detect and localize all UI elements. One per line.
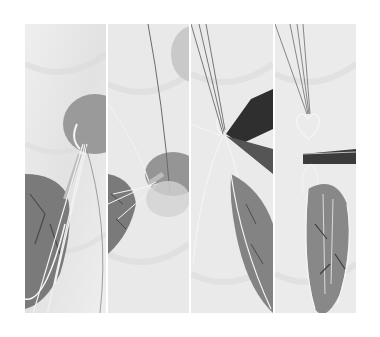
step-2-photo xyxy=(108,24,189,313)
step-3-photo xyxy=(191,24,273,313)
step-1-photo xyxy=(25,24,106,313)
photo-strip xyxy=(25,24,356,313)
photo-panel-step-4 xyxy=(275,24,356,313)
step-4-photo xyxy=(275,24,356,313)
photo-panel-step-3 xyxy=(191,24,273,313)
photo-panel-step-2 xyxy=(108,24,189,313)
photo-panel-step-1 xyxy=(25,24,106,313)
